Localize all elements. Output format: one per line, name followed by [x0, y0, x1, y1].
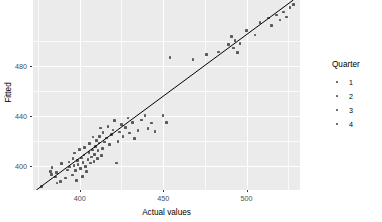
legend-dot-icon: [336, 109, 339, 112]
legend-item[interactable]: 1: [330, 75, 382, 89]
x-tick-label: 400: [60, 194, 100, 203]
y-tick-mark: [30, 66, 32, 67]
y-tick-mark: [30, 116, 32, 117]
y-tick-label: 400: [0, 162, 27, 171]
legend: Quarter 1234: [330, 60, 382, 131]
legend-item-label: 3: [349, 106, 353, 115]
legend-dot-icon: [336, 95, 339, 98]
x-axis-title: Actual values: [33, 208, 300, 217]
chart-root: 400450500 400440480 Actual values Fitted…: [0, 0, 382, 222]
legend-dot-icon: [336, 81, 339, 84]
y-axis-title: Fitted: [4, 63, 13, 123]
legend-title: Quarter: [332, 60, 382, 69]
x-tick-mark: [163, 190, 164, 192]
legend-item[interactable]: 2: [330, 89, 382, 103]
legend-item[interactable]: 3: [330, 103, 382, 117]
legend-item-label: 1: [349, 78, 353, 87]
x-tick-mark: [80, 190, 81, 192]
legend-key-swatch: [330, 117, 344, 131]
fit-line: [33, 0, 300, 190]
legend-key-swatch: [330, 103, 344, 117]
x-tick-label: 500: [227, 194, 267, 203]
x-tick-mark: [247, 190, 248, 192]
legend-dot-icon: [336, 123, 339, 126]
legend-items: 1234: [330, 75, 382, 131]
plot-panel: [33, 0, 300, 190]
legend-key-swatch: [330, 75, 344, 89]
y-tick-mark: [30, 166, 32, 167]
legend-item-label: 2: [349, 92, 353, 101]
x-tick-label: 450: [143, 194, 183, 203]
legend-key-swatch: [330, 89, 344, 103]
legend-item-label: 4: [349, 120, 353, 129]
legend-item[interactable]: 4: [330, 117, 382, 131]
